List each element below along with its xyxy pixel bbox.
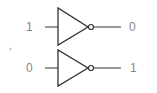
gate-2-output-label: 1 (130, 62, 137, 74)
gate-2-triangle-icon (58, 50, 88, 86)
gate-2-input-label: 0 (26, 62, 33, 74)
gate-1-output-label: 0 (129, 21, 136, 33)
not-gate-1 (45, 8, 121, 45)
gate-1-triangle-icon (58, 8, 88, 45)
gate-1-inversion-bubble-icon (89, 25, 94, 30)
inverter-diagram (0, 0, 157, 93)
gate-1-input-label: 1 (26, 21, 33, 33)
gate-2-inversion-bubble-icon (89, 66, 94, 71)
stray-mark: , (9, 40, 12, 52)
not-gate-2 (45, 50, 121, 86)
